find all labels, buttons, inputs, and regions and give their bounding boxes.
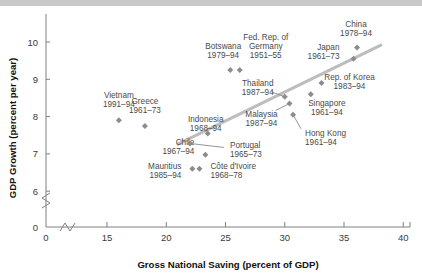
point-label-name: Mauritius	[148, 162, 181, 171]
x-tick-label-0: 0	[43, 232, 48, 243]
y-tick-label-7: 7	[33, 148, 38, 159]
point-label-name: Chile	[176, 138, 195, 147]
point-label-name: Rep. of Korea	[324, 73, 375, 82]
x-tick-label-15: 15	[102, 232, 113, 243]
point-label-name: Germany	[249, 42, 284, 51]
y-tick-label-6: 6	[33, 186, 38, 197]
chart-figure: 06789100152025303540Vietnam1991–94Greece…	[0, 0, 422, 279]
scatter-plot: 06789100152025303540Vietnam1991–94Greece…	[0, 0, 422, 279]
point-label-period: 1961–94	[311, 108, 343, 117]
point-label-period: 1951–55	[250, 51, 282, 60]
data-point-marker[interactable]	[142, 123, 148, 129]
x-axis-title: Gross National Saving (percent of GDP)	[137, 259, 318, 270]
y-tick-label-9: 9	[33, 74, 38, 85]
data-point-marker[interactable]	[237, 67, 243, 73]
data-point-marker[interactable]	[189, 166, 195, 172]
y-axis-title: GDP Growth (percent per year)	[7, 58, 18, 199]
point-label-name: Fed. Rep. of	[243, 33, 289, 42]
point-label-period: 1983–94	[334, 82, 366, 91]
point-label-name: Indonesia	[188, 115, 224, 124]
point-label-period: 1978–94	[340, 29, 372, 38]
y-tick-label-0: 0	[33, 222, 38, 233]
point-label-period: 1979–94	[207, 51, 239, 60]
point-label-name: Malaysia	[245, 110, 278, 119]
x-axis-break-icon	[60, 223, 75, 231]
x-tick-label-25: 25	[220, 232, 231, 243]
point-label-name: Thailand	[242, 79, 274, 88]
y-tick-label-10: 10	[27, 37, 38, 48]
point-label-name: China	[345, 20, 367, 29]
data-point-marker[interactable]	[286, 101, 292, 107]
x-tick-label-30: 30	[279, 232, 290, 243]
point-label-name: Côte d'Ivoire	[210, 162, 256, 171]
leader-line-5	[190, 143, 224, 147]
point-label-period: 1987–94	[246, 119, 278, 128]
data-point-marker[interactable]	[227, 67, 233, 73]
point-label-name: Hong Kong	[305, 129, 346, 138]
point-label-period: 1961–73	[129, 106, 161, 115]
point-label-name: Greece	[131, 97, 158, 106]
y-axis-break-icon	[42, 193, 50, 208]
point-label-name: Portugal	[230, 141, 261, 150]
y-tick-label-8: 8	[33, 111, 38, 122]
point-label-period: 1985–94	[149, 171, 181, 180]
data-point-marker[interactable]	[116, 117, 122, 123]
point-label-period: 1965–73	[230, 150, 262, 159]
data-point-marker[interactable]	[196, 166, 202, 172]
x-tick-label-40: 40	[398, 232, 409, 243]
point-label-period: 1961–73	[308, 52, 340, 61]
data-point-marker[interactable]	[354, 45, 360, 51]
leader-line-11	[293, 115, 301, 129]
point-label-name: Botswana	[205, 42, 241, 51]
data-point-marker[interactable]	[202, 152, 208, 158]
point-label-period: 1968–94	[190, 124, 222, 133]
data-point-marker[interactable]	[308, 91, 314, 97]
point-label-period: 1968–78	[210, 171, 242, 180]
data-point-marker[interactable]	[290, 112, 296, 118]
x-tick-label-20: 20	[161, 232, 172, 243]
x-tick-label-35: 35	[339, 232, 350, 243]
point-label-period: 1961–94	[305, 138, 337, 147]
point-label-period: 1967–94	[162, 147, 194, 156]
point-label-name: Singapore	[308, 99, 346, 108]
point-label-name: Japan	[317, 43, 340, 52]
point-label-period: 1987–94	[242, 88, 274, 97]
point-label-name: Vietnam	[104, 91, 134, 100]
